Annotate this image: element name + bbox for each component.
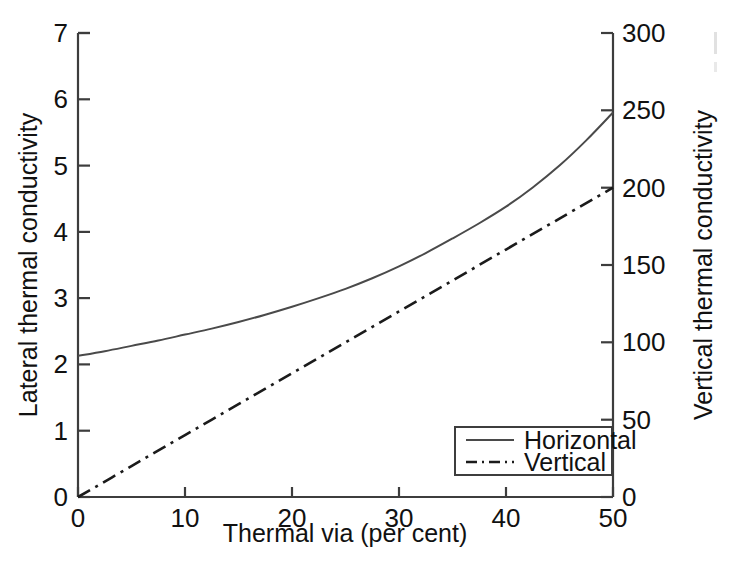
y-right-tick-label: 200 xyxy=(622,175,665,201)
x-tick-label: 0 xyxy=(71,505,85,531)
y-left-tick-label: 1 xyxy=(54,418,68,444)
y-right-tick-label: 300 xyxy=(622,20,665,46)
x-tick-label: 40 xyxy=(492,505,521,531)
y-right-tick-label: 250 xyxy=(622,97,665,123)
y-right-tick-label: 150 xyxy=(622,252,665,278)
y-left-tick-label: 2 xyxy=(54,351,68,377)
x-axis-ticks xyxy=(78,487,613,497)
y-left-tick-label: 6 xyxy=(54,86,68,112)
y-left-axis-title: Lateral thermal conductivity xyxy=(16,113,41,417)
y-left-tick-label: 4 xyxy=(54,219,68,245)
y-left-tick-label: 7 xyxy=(54,20,68,46)
x-axis-title: Thermal via (per cent) xyxy=(223,521,468,546)
y-left-tick-label: 0 xyxy=(54,484,68,510)
x-tick-label: 10 xyxy=(171,505,200,531)
scan-artifact xyxy=(714,32,717,72)
y-left-tick-label: 5 xyxy=(54,153,68,179)
y-right-tick-label: 0 xyxy=(622,484,636,510)
chart-plot xyxy=(0,0,730,571)
left-axis-ticks xyxy=(78,33,90,497)
y-right-tick-label: 100 xyxy=(622,329,665,355)
y-left-tick-label: 3 xyxy=(54,285,68,311)
legend-label-vertical: Vertical xyxy=(524,450,606,475)
figure-canvas: 0 10 20 30 40 50 0 1 2 3 4 5 6 7 0 50 10… xyxy=(0,0,730,571)
y-right-axis-title: Vertical thermal conductivity xyxy=(691,110,716,420)
